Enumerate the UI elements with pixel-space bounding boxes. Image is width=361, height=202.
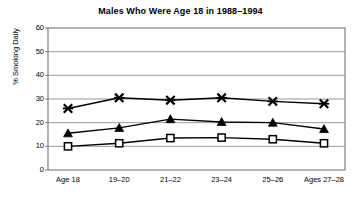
marker-x-cross	[63, 104, 73, 112]
series-line-square-series	[68, 138, 324, 147]
marker-x-cross	[114, 94, 124, 102]
data-series-lines	[68, 98, 324, 147]
marker-open-square	[64, 143, 71, 150]
plot-area	[0, 0, 361, 202]
marker-open-square	[218, 134, 225, 141]
marker-x-cross	[165, 96, 175, 104]
series-line-triangle-series	[68, 119, 324, 133]
marker-x-cross	[216, 94, 226, 102]
marker-open-square	[320, 140, 327, 147]
marker-open-square	[269, 136, 276, 143]
chart-container: Males Who Were Age 18 in 1988–1994 % Smo…	[0, 0, 361, 202]
marker-x-cross	[268, 97, 278, 105]
marker-open-square	[116, 140, 123, 147]
marker-open-square	[167, 134, 174, 141]
marker-x-cross	[319, 100, 329, 108]
